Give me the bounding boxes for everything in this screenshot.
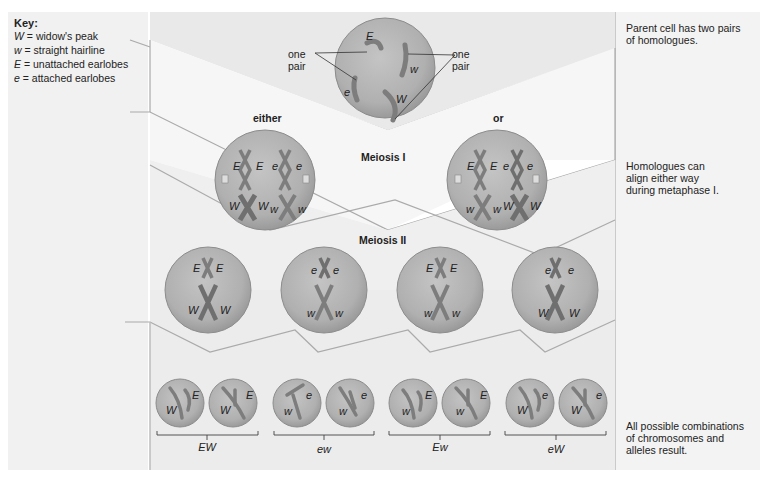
allele-label: E (467, 160, 474, 172)
allele-label: e (503, 160, 509, 172)
allele-label: W (188, 304, 198, 316)
allele-label: W (396, 93, 406, 105)
allele-label: E (425, 389, 432, 401)
allele-label: w (335, 307, 343, 319)
allele-label: e (545, 264, 551, 276)
allele-label: E (480, 389, 487, 401)
allele-label: e (361, 389, 367, 401)
allele-label: e (596, 389, 602, 401)
allele-label: e (272, 160, 278, 172)
allele-label: w (284, 405, 292, 417)
allele-label: w (402, 405, 410, 417)
one-pair-label-left: one pair (288, 48, 306, 72)
allele-label: W (538, 307, 548, 319)
allele-label: e (311, 264, 317, 276)
allele-label: W (229, 200, 239, 212)
combination-label-eW: eW (526, 443, 586, 455)
note-metaphase: Homologues can align either way during m… (626, 160, 719, 196)
parent-cell (335, 18, 435, 118)
allele-label: e (296, 160, 302, 172)
allele-label: w (466, 203, 474, 215)
meiosis-diagram: Key: W = widow's peak w = straight hairl… (0, 0, 767, 479)
label-meiosis-2: Meiosis II (359, 234, 406, 246)
allele-label: E (426, 262, 433, 274)
meiosis1-cell-or (447, 130, 547, 230)
allele-label: E (256, 160, 263, 172)
allele-label: E (233, 160, 240, 172)
allele-label: E (366, 30, 373, 42)
allele-label: w (307, 307, 315, 319)
allele-label: w (452, 307, 460, 319)
allele-label: e (527, 160, 533, 172)
allele-label: w (298, 203, 306, 215)
allele-label: e (306, 389, 312, 401)
one-pair-label-right: one pair (452, 48, 470, 72)
allele-label: W (530, 200, 540, 212)
combination-label-EW: EW (177, 441, 237, 453)
allele-label: w (270, 203, 278, 215)
allele-label: w (493, 203, 501, 215)
note-result: All possible combinations of chromosomes… (626, 420, 744, 456)
allele-label: e (344, 86, 350, 98)
key-entry-W: W = widow's peak (14, 30, 98, 42)
allele-label: w (456, 405, 464, 417)
label-either: either (253, 112, 282, 124)
allele-label: e (542, 389, 548, 401)
combination-label-Ew: Ew (410, 441, 470, 453)
allele-label: W (517, 404, 527, 416)
combination-label-ew: ew (294, 443, 354, 455)
allele-label: E (192, 389, 199, 401)
allele-label: W (220, 304, 230, 316)
allele-label: W (220, 404, 230, 416)
allele-label: E (450, 262, 457, 274)
key-entry-w: w = straight hairline (14, 44, 105, 56)
key-title: Key: (14, 17, 38, 29)
allele-label: W (258, 200, 268, 212)
allele-label: W (503, 200, 513, 212)
allele-label: e (568, 264, 574, 276)
key-entry-E: E = unattached earlobes (14, 58, 128, 70)
allele-label: e (333, 264, 339, 276)
allele-label: E (193, 262, 200, 274)
allele-label: E (490, 160, 497, 172)
allele-label: w (410, 63, 418, 75)
allele-label: W (569, 307, 579, 319)
key-entry-e: e = attached earlobes (14, 72, 115, 84)
allele-label: w (424, 307, 432, 319)
allele-label: W (571, 404, 581, 416)
allele-label: E (246, 389, 253, 401)
note-parent: Parent cell has two pairs of homologues. (626, 22, 740, 46)
meiosis1-cell-either (215, 130, 315, 230)
notes-panel (615, 12, 760, 470)
allele-label: w (339, 405, 347, 417)
allele-label: W (166, 404, 176, 416)
label-meiosis-1: Meiosis I (361, 151, 405, 163)
label-or: or (493, 112, 504, 124)
allele-label: E (216, 262, 223, 274)
